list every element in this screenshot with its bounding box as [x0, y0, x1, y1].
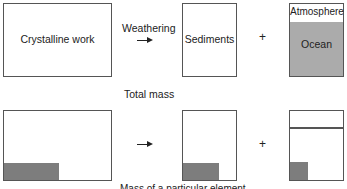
- weathering-label: Weathering: [122, 22, 176, 34]
- sediments-box: Sediments: [182, 3, 237, 77]
- weathering-arrow-icon: [137, 40, 151, 41]
- crystalline-work-label: Crystalline work: [4, 33, 111, 45]
- transfer-arrow-icon: [137, 144, 151, 145]
- crystalline-mass-box: [3, 110, 112, 181]
- reservoir-mass-box: [289, 110, 344, 181]
- atmosphere-label: Atmosphere: [290, 6, 343, 17]
- crystalline-work-box: Crystalline work: [3, 3, 112, 77]
- ocean-label: Ocean: [290, 38, 343, 50]
- sediments-mass-box: [182, 110, 237, 181]
- atmosphere-divider: [290, 127, 343, 129]
- crystalline-element-fill: [4, 163, 59, 180]
- plus-sign-bottom: +: [259, 137, 266, 151]
- atmosphere-ocean-box: Atmosphere Ocean: [289, 3, 344, 77]
- ocean-region: Ocean: [290, 22, 343, 76]
- sediments-element-fill: [183, 163, 219, 180]
- plus-sign-top: +: [259, 30, 266, 44]
- total-mass-caption: Total mass: [124, 88, 174, 100]
- element-mass-caption: Mass of a particular element: [120, 183, 246, 189]
- reservoir-element-fill: [290, 162, 308, 180]
- sediments-label: Sediments: [183, 33, 236, 45]
